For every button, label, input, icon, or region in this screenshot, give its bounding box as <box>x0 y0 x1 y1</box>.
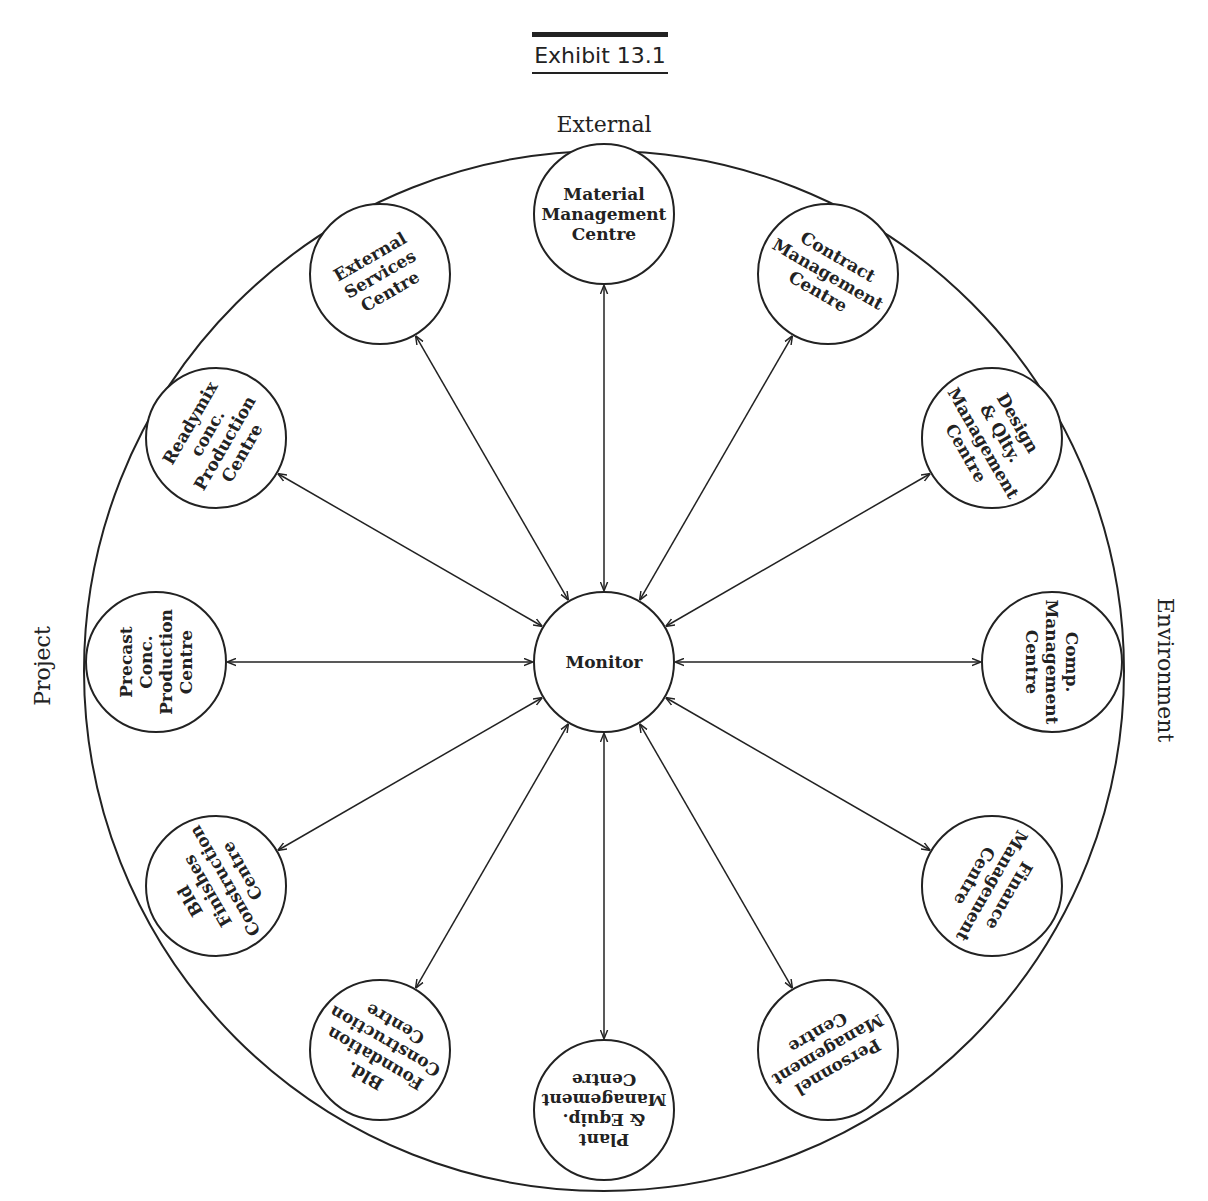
node-readymix[interactable]: Readymixconc.ProductionCentre <box>146 368 286 508</box>
arrow-readymix <box>278 474 541 626</box>
node-precast[interactable]: PrecastConc.ProductionCentre <box>86 592 226 732</box>
node-label-line: Plant <box>579 1130 630 1150</box>
node-label-line: Material <box>563 184 645 204</box>
node-finishes[interactable]: BldFinishesConstructionCentre <box>146 812 286 960</box>
arrow-finance <box>666 698 929 850</box>
node-label-line: & Equip. <box>563 1110 646 1130</box>
node-finance[interactable]: FinanceManagementCentre <box>922 816 1062 956</box>
node-contract[interactable]: ContractManagementCentre <box>758 204 898 344</box>
node-foundation[interactable]: Bld.FoundationConstructionCentre <box>306 980 454 1120</box>
arrow-personnel <box>640 724 792 987</box>
arrow-contract <box>640 336 792 599</box>
monitor-hub-diagram: MaterialManagementCentreContractManageme… <box>0 0 1208 1201</box>
edge-label-external: External <box>556 112 651 137</box>
arrow-external <box>416 336 568 599</box>
monitor-node[interactable]: Monitor <box>534 592 674 732</box>
arrow-finishes <box>278 698 541 850</box>
node-material[interactable]: MaterialManagementCentre <box>534 144 674 284</box>
node-label-line: Precast <box>116 626 136 697</box>
edge-label-environment: Environment <box>1153 598 1178 743</box>
edge-label-project: Project <box>30 626 55 706</box>
node-label-line: Centre <box>572 1070 637 1090</box>
arrow-design <box>666 474 929 626</box>
arrow-foundation <box>416 724 568 987</box>
node-design[interactable]: Design& Qlty.ManagementCentre <box>922 364 1062 512</box>
node-external[interactable]: ExternalServicesCentre <box>310 204 450 344</box>
node-label-line: Comp. <box>1062 632 1082 693</box>
node-personnel[interactable]: PersonnelManagementCentre <box>758 980 898 1120</box>
node-label-line: Production <box>156 609 176 715</box>
node-label-line: Conc. <box>136 635 156 689</box>
node-label-line: Management <box>541 1090 666 1110</box>
node-label-line: Centre <box>572 224 637 244</box>
node-plant[interactable]: Plant& Equip.ManagementCentre <box>534 1040 674 1180</box>
node-label-line: Centre <box>1022 630 1042 695</box>
node-label-line: Management <box>1042 600 1062 725</box>
node-label-line: Centre <box>176 630 196 695</box>
node-comp[interactable]: Comp.ManagementCentre <box>982 592 1122 732</box>
node-label-line: Management <box>542 204 667 224</box>
monitor-label: Monitor <box>565 652 643 672</box>
